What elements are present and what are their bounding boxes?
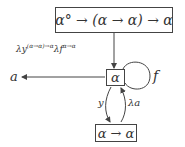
edge-top-label: λy(α→α)→αλfα→α xyxy=(16,42,76,54)
node-a-label: a xyxy=(10,69,18,84)
edge-self-loop xyxy=(123,62,150,89)
node-alpha-label: α xyxy=(111,71,120,84)
node-top-label: α° → (α → α) → α xyxy=(55,13,173,27)
edge-bottom-to-alpha xyxy=(121,88,126,122)
edge-alpha-to-bottom xyxy=(106,87,111,122)
node-bottom: α → α xyxy=(95,124,137,142)
edge-y-label: y xyxy=(98,97,104,108)
node-top: α° → (α → α) → α xyxy=(55,7,173,33)
node-bottom-label: α → α xyxy=(98,127,135,140)
edge-lambda-a-label: λa xyxy=(128,97,140,108)
self-loop-label: f xyxy=(153,68,158,84)
node-alpha: α xyxy=(106,69,125,86)
